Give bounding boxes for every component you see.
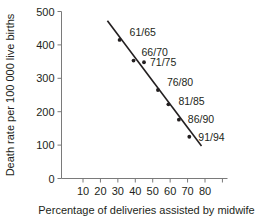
x-tick-label: 40 bbox=[129, 185, 141, 197]
x-tick-label: 70 bbox=[181, 185, 193, 197]
data-point-label: 81/85 bbox=[178, 95, 204, 107]
data-point bbox=[187, 135, 191, 139]
y-tick-label: 300 bbox=[36, 72, 54, 84]
data-point bbox=[132, 59, 136, 63]
x-tick-label: 80 bbox=[199, 185, 211, 197]
y-tick-label: 100 bbox=[36, 139, 54, 151]
data-point bbox=[156, 88, 160, 92]
y-tick-label: 0 bbox=[48, 173, 54, 185]
data-point bbox=[118, 38, 122, 42]
x-axis-title: Percentage of deliveries assisted by mid… bbox=[38, 204, 254, 216]
x-tick-label: 30 bbox=[112, 185, 124, 197]
data-point-label: 91/94 bbox=[198, 131, 224, 143]
scatter-chart: 0100200300400500102030405060708061/6566/… bbox=[0, 0, 255, 222]
data-point-label: 76/80 bbox=[167, 76, 193, 88]
y-tick-label: 500 bbox=[36, 6, 54, 18]
y-axis-title: Death rate per 100 000 live births bbox=[4, 13, 16, 176]
y-tick-label: 200 bbox=[36, 106, 54, 118]
data-point bbox=[142, 60, 146, 64]
x-tick-label: 60 bbox=[164, 185, 176, 197]
x-tick-label: 20 bbox=[94, 185, 106, 197]
x-tick-label: 10 bbox=[77, 185, 89, 197]
y-tick-label: 400 bbox=[36, 39, 54, 51]
data-point bbox=[167, 102, 171, 106]
data-point-label: 61/65 bbox=[130, 26, 156, 38]
chart-container: 0100200300400500102030405060708061/6566/… bbox=[0, 0, 255, 222]
data-point bbox=[177, 118, 181, 122]
data-point-label: 86/90 bbox=[188, 113, 214, 125]
x-tick-label: 50 bbox=[147, 185, 159, 197]
data-point-label: 71/75 bbox=[150, 56, 176, 68]
